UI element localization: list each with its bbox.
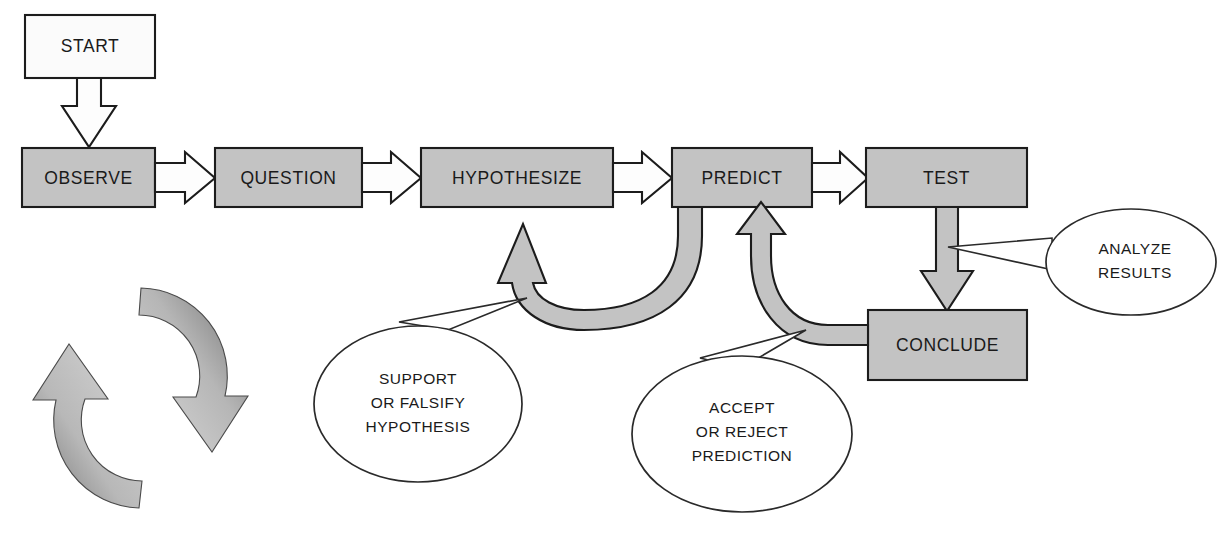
stage-node-test[interactable]: TEST xyxy=(866,148,1027,207)
support-or-falsify-line-2: OR FALSIFY xyxy=(371,394,466,411)
stage-node-start[interactable]: START xyxy=(25,15,155,78)
test-to-conclude-arrow-icon xyxy=(921,207,973,311)
cycle-icon-arrow-left xyxy=(33,344,142,508)
accept-or-reject-line-1: ACCEPT xyxy=(709,399,775,416)
start-box-label: START xyxy=(61,36,120,56)
stage-node-observe[interactable]: OBSERVE xyxy=(22,148,155,207)
test-box-label: TEST xyxy=(923,168,970,188)
connector-observe-to-question xyxy=(155,152,215,203)
observe-box-label: OBSERVE xyxy=(44,168,133,188)
flowchart-canvas: START OBSERVE QUESTION HYPOTHESIZE PREDI… xyxy=(0,0,1230,535)
cycle-icon-arrow-right xyxy=(139,288,248,452)
support-or-falsify-line-1: SUPPORT xyxy=(379,370,457,387)
analyze-results-leader-line xyxy=(948,238,1053,270)
accept-or-reject-line-3: PREDICTION xyxy=(692,447,793,464)
analyze-results-line-1: ANALYZE xyxy=(1099,240,1172,257)
stage-node-predict[interactable]: PREDICT xyxy=(672,148,812,207)
callout-analyze-results[interactable]: ANALYZE RESULTS xyxy=(948,209,1216,315)
stage-node-conclude[interactable]: CONCLUDE xyxy=(868,310,1027,380)
analyze-results-ellipse-shape xyxy=(1046,209,1216,315)
connector-question-to-hypothesize xyxy=(362,152,421,203)
accept-or-reject-line-2: OR REJECT xyxy=(696,423,788,440)
scientific-method-flowchart: START OBSERVE QUESTION HYPOTHESIZE PREDI… xyxy=(0,0,1230,535)
start-to-observe-arrow-icon xyxy=(62,78,116,147)
stage-node-hypothesize[interactable]: HYPOTHESIZE xyxy=(421,148,613,207)
predict-to-hypothesize-curved-arrow-icon xyxy=(498,207,702,330)
support-or-falsify-line-3: HYPOTHESIS xyxy=(366,418,471,435)
observe-to-question-arrow-icon xyxy=(155,152,215,203)
hypothesize-box-label: HYPOTHESIZE xyxy=(452,168,582,188)
callout-support-or-falsify[interactable]: SUPPORT OR FALSIFY HYPOTHESIS xyxy=(314,298,527,482)
hypothesize-to-predict-arrow-icon xyxy=(613,152,672,203)
stage-node-question[interactable]: QUESTION xyxy=(215,148,362,207)
predict-to-test-arrow-icon xyxy=(812,152,868,203)
connector-predict-to-test xyxy=(812,152,868,203)
connector-conclude-to-predict xyxy=(737,202,868,345)
predict-box-label: PREDICT xyxy=(701,168,782,188)
question-to-hypothesize-arrow-icon xyxy=(362,152,421,203)
cycle-icon xyxy=(33,288,248,508)
question-box-label: QUESTION xyxy=(240,168,336,188)
connector-start-to-observe xyxy=(62,78,116,147)
conclude-box-label: CONCLUDE xyxy=(896,335,999,355)
connector-hypothesize-to-predict xyxy=(613,152,672,203)
callout-accept-or-reject[interactable]: ACCEPT OR REJECT PREDICTION xyxy=(632,330,852,512)
connector-test-to-conclude xyxy=(921,207,973,311)
conclude-to-predict-curved-arrow-icon xyxy=(737,202,868,345)
connector-predict-to-hypothesize xyxy=(498,207,702,330)
analyze-results-line-2: RESULTS xyxy=(1098,264,1172,281)
